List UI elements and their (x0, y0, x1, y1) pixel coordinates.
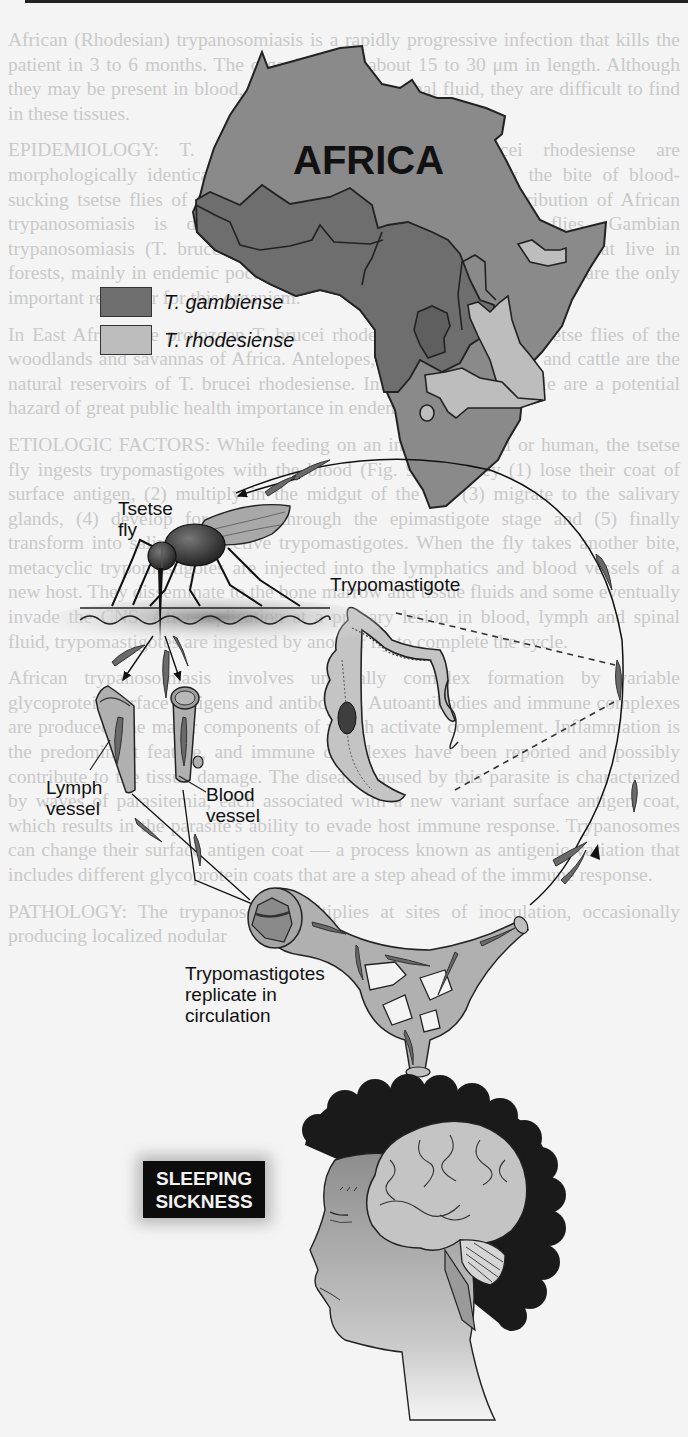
badge-line: SLEEPING (143, 1167, 265, 1190)
legend-swatch-rhodesiense (100, 325, 152, 355)
circulating-parasites (265, 460, 637, 884)
label-blood-vessel: Blood vessel (206, 784, 260, 826)
lifecycle-illustration (0, 0, 688, 1437)
blood-vessel (171, 687, 206, 792)
legend-item-gambiense: T. gambiense (100, 287, 283, 317)
rhodesiense-small-spot (420, 405, 434, 421)
label-line: vessel (206, 805, 260, 826)
label-line: replicate in (185, 984, 325, 1005)
cycle-arrow-upward (590, 844, 600, 860)
legend-swatch-gambiense (100, 287, 152, 317)
label-replicate-in-circulation: Trypomastigotes replicate in circulation (185, 963, 325, 1026)
legend-item-rhodesiense: T. rhodesiense (100, 325, 294, 355)
label-tsetse-fly: Tsetse fly (118, 498, 173, 540)
label-line: fly (118, 519, 173, 540)
cycle-arrow-path (236, 459, 623, 905)
skin-surface (45, 598, 385, 646)
legend-label: T. rhodesiense (164, 329, 294, 352)
label-lymph-vessel: Lymph vessel (46, 777, 102, 819)
label-line: Lymph (46, 777, 102, 798)
label-trypomastigote: Trypomastigote (330, 574, 460, 595)
label-line: circulation (185, 1005, 325, 1026)
head-illustration (302, 1074, 566, 1420)
legend-label: T. gambiense (164, 291, 283, 314)
label-line: Blood (206, 784, 260, 805)
sleeping-sickness-badge: SLEEPING SICKNESS (143, 1161, 265, 1218)
label-line: Trypomastigotes (185, 963, 325, 984)
label-line: vessel (46, 798, 102, 819)
badge-line: SICKNESS (143, 1190, 265, 1213)
label-line: Tsetse (118, 498, 173, 519)
nucleus (338, 702, 356, 734)
zoom-dashed-line-bottom (455, 702, 614, 790)
map-title: AFRICA (293, 150, 444, 171)
africa-map (193, 46, 606, 508)
migrating-parasites (135, 818, 201, 866)
